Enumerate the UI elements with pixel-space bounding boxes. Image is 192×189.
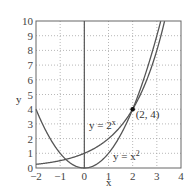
y-axis-label: y — [16, 93, 22, 105]
curves — [36, 21, 165, 168]
x-tick-label: 0 — [82, 170, 88, 182]
y-tick-label: 4 — [28, 103, 34, 115]
intersection-point-marker — [130, 107, 135, 112]
y-tick-label: 8 — [28, 44, 34, 56]
y-tick-label: 7 — [28, 59, 34, 71]
y-tick-label: 1 — [28, 147, 34, 159]
y-tick-label: 6 — [28, 74, 34, 86]
x-tick-label: −1 — [54, 170, 66, 182]
curve-label-quadratic: y = x2 — [113, 149, 140, 162]
y-tick-label: 2 — [28, 133, 34, 145]
intersection-point-label: (2, 4) — [136, 108, 160, 121]
y-tick-label: 10 — [22, 15, 34, 27]
x-axis-label: x — [106, 176, 112, 188]
curve-label-exponential-exponent: x — [112, 118, 116, 127]
y-tick-label: 9 — [28, 30, 34, 42]
curve-label-exponential-base: y = 2 — [89, 119, 112, 131]
chart: 012345678910 −2−101234 y x (2, 4) y = 2x… — [0, 0, 192, 189]
x-tick-label: 4 — [178, 170, 184, 182]
x-tick-label: −2 — [30, 170, 42, 182]
curve-label-quadratic-base: y = x — [113, 150, 136, 162]
curve-label-quadratic-exponent: 2 — [136, 149, 140, 158]
y-tick-labels: 012345678910 — [22, 15, 34, 174]
curve-exponential — [36, 21, 165, 164]
y-tick-label: 3 — [28, 118, 34, 130]
x-tick-label: 3 — [154, 170, 160, 182]
curve-label-exponential: y = 2x — [89, 118, 116, 131]
x-tick-label: 2 — [130, 170, 136, 182]
y-tick-label: 5 — [28, 89, 34, 101]
